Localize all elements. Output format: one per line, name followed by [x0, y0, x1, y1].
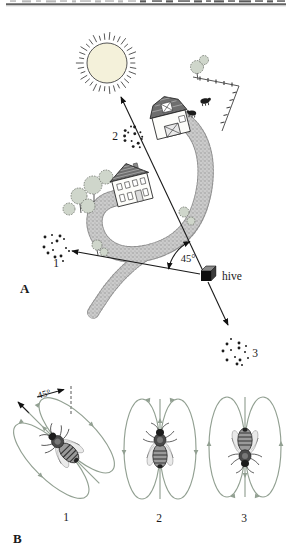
forager-dot — [63, 238, 65, 240]
sun-ray — [129, 52, 136, 55]
forager-dot — [44, 236, 47, 239]
header-text-fragment — [255, 0, 263, 2]
forager-dot — [230, 338, 232, 340]
dance-label-3: 3 — [241, 512, 247, 524]
angle-label-b: 45° — [36, 387, 52, 400]
forager-dot — [239, 359, 242, 362]
sun-ray — [81, 75, 88, 79]
header-text-fragment — [105, 0, 114, 2]
forager-dot — [47, 252, 50, 255]
sun-ray — [124, 44, 128, 47]
forager-dot — [141, 136, 143, 138]
hive-icon — [201, 266, 216, 281]
sun-ray — [79, 58, 84, 59]
sun-ray — [109, 32, 110, 40]
forager-dot — [124, 139, 127, 142]
sun-ray — [117, 36, 120, 42]
forager-dot — [60, 255, 63, 258]
forager-dot — [56, 240, 59, 243]
forager-dot — [247, 357, 249, 359]
sun-ray — [121, 82, 126, 88]
sun-ray — [124, 79, 129, 83]
header-text-fragment — [118, 0, 123, 2]
arrow-hive-to-food-3 — [208, 282, 228, 325]
food-label-3: 3 — [252, 347, 258, 359]
forager-dot — [52, 249, 54, 251]
forager-dot — [130, 125, 132, 127]
pasture-tree — [200, 56, 209, 65]
header-text-fragment — [36, 0, 41, 2]
header-text-fragment — [206, 0, 211, 2]
barn-icon — [146, 92, 193, 140]
sun-ray — [109, 86, 110, 94]
figure-canvas: 45° hive 1 2 3 A 45° 1 2 3 B — [0, 0, 288, 551]
forager-dot — [132, 145, 135, 148]
forager-dot — [123, 135, 126, 138]
header-text-fragment — [178, 0, 190, 2]
forager-dot — [241, 364, 243, 366]
header-text-fragment — [60, 0, 67, 2]
forager-dot — [245, 345, 247, 347]
header-text-fragment — [166, 0, 173, 2]
panel-b: 45° 1 2 3 B — [0, 384, 283, 546]
sun-ray — [130, 67, 136, 68]
clipped-page-header-text — [10, 0, 285, 2]
header-text-fragment — [214, 0, 224, 2]
header-text-fragment — [95, 0, 101, 2]
forager-dot — [234, 356, 236, 358]
forager-dot — [236, 363, 239, 366]
sun-ray — [85, 79, 90, 83]
food-label-1: 1 — [53, 257, 59, 269]
forager-dot — [230, 349, 232, 351]
sun-ray — [129, 71, 136, 74]
header-text-fragment — [80, 0, 91, 2]
panel-a: 45° hive 1 2 3 A — [20, 32, 258, 366]
sun-ray — [93, 84, 96, 91]
forager-dot — [139, 146, 141, 148]
food-label-2: 2 — [112, 130, 118, 142]
sun-ray — [99, 85, 101, 91]
sun-ray — [127, 47, 132, 50]
header-text-fragment — [72, 0, 76, 2]
forager-dot — [65, 247, 67, 249]
panel-a-label: A — [20, 281, 30, 296]
dance-2 — [122, 397, 199, 499]
sun-ray — [121, 38, 126, 44]
header-text-fragment — [277, 0, 285, 2]
dance-label-2: 2 — [156, 512, 162, 524]
forager-dot — [62, 260, 64, 262]
sun-icon — [76, 32, 136, 94]
forager-dot — [141, 138, 143, 140]
food-cluster-3 — [222, 338, 249, 366]
forager-dot — [133, 132, 136, 135]
forager-dot — [51, 242, 53, 244]
angle-label-a: 45° — [181, 253, 196, 264]
dance-axis-extension-arrow — [18, 402, 29, 413]
header-text-fragment — [22, 0, 31, 2]
header-text-fragment — [128, 0, 136, 2]
cow-icon — [200, 97, 212, 106]
forager-dot — [226, 359, 229, 362]
header-text-fragment — [267, 0, 273, 2]
sun-ray — [79, 52, 85, 54]
forager-dot — [68, 250, 70, 252]
forager-dot — [133, 126, 136, 129]
sun-ray — [127, 75, 131, 78]
dance-label-1: 1 — [63, 511, 69, 523]
sun-disc — [87, 43, 127, 83]
header-text-fragment — [194, 0, 202, 2]
sun-ray — [113, 36, 114, 41]
sun-ray — [89, 39, 93, 44]
header-text-fragment — [228, 0, 235, 2]
sun-ray — [130, 58, 135, 59]
forager-dot — [238, 342, 241, 345]
sun-ray — [104, 33, 105, 39]
sun-ray — [93, 35, 96, 42]
forager-dot — [139, 131, 141, 133]
header-text-fragment — [10, 0, 16, 2]
forager-dot — [137, 142, 140, 145]
forager-dot — [59, 235, 62, 238]
forager-dot — [238, 347, 241, 350]
forager-dot — [124, 129, 127, 132]
sun-ray — [81, 71, 86, 73]
